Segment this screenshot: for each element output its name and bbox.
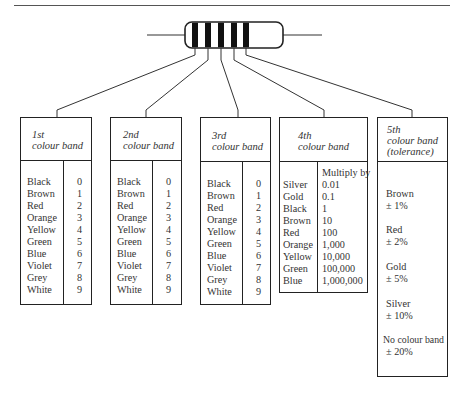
colour-name: Yellow (283, 251, 312, 263)
digit-value: 7 (256, 262, 261, 274)
header-line: 2nd (123, 129, 181, 140)
tolerance-colour: Gold (386, 261, 406, 273)
digit-value: 1 (77, 188, 82, 200)
multiplier-value: 1 (322, 203, 327, 215)
column-divider (152, 161, 153, 304)
digit-value: 3 (256, 214, 261, 226)
tolerance-colour: Brown (386, 188, 414, 200)
band-5 (243, 23, 249, 47)
digit-value: 2 (256, 202, 261, 214)
colour-name: Black (207, 178, 231, 190)
digit-value: 9 (256, 286, 261, 298)
colour-name: Grey (117, 272, 137, 284)
digit-value: 0 (166, 176, 171, 188)
colour-name: Violet (27, 260, 52, 272)
colour-name: Brown (117, 188, 145, 200)
colour-name: Yellow (207, 226, 236, 238)
digit-value: 3 (166, 212, 171, 224)
colour-name: Yellow (27, 224, 56, 236)
box-header: 1st colour band (21, 118, 91, 161)
colour-name: Blue (207, 250, 226, 262)
digit-value: 6 (166, 248, 171, 260)
digit-value: 5 (256, 238, 261, 250)
digit-value: 5 (166, 236, 171, 248)
colour-name: Violet (117, 260, 142, 272)
digit-value: 0 (77, 176, 82, 188)
header-line: colour band (387, 135, 447, 146)
digit-value: 7 (166, 260, 171, 272)
colour-name: Brown (283, 215, 311, 227)
colour-name: Blue (27, 248, 46, 260)
third-band-box: 3rd colour band Black 0 Brown 1 Red 2 Or… (200, 117, 271, 305)
header-line: colour band (298, 141, 367, 152)
colour-name: Brown (27, 188, 55, 200)
colour-name: Green (283, 263, 308, 275)
digit-value: 8 (256, 274, 261, 286)
colour-name: Yellow (117, 224, 146, 236)
digit-value: 4 (256, 226, 261, 238)
leader-band2 (146, 48, 208, 117)
digit-value: 1 (166, 188, 171, 200)
multiplier-value: 1,000 (322, 239, 345, 251)
fourth-band-box: 4th colour band Multiply by Silver 0.01 … (279, 117, 368, 293)
digit-value: 2 (77, 200, 82, 212)
leader-band4 (234, 48, 324, 117)
second-band-box: 2nd colour band Black 0 Brown 1 Red 2 Or… (110, 117, 182, 305)
colour-name: Gold (283, 191, 303, 203)
colour-name: White (27, 284, 52, 296)
digit-value: 0 (256, 178, 261, 190)
header-line: 5th (387, 124, 447, 135)
tolerance-value: ± 2% (386, 236, 408, 248)
box-header: 3rd colour band (201, 118, 270, 162)
multiplier-column-header: Multiply by (322, 167, 370, 179)
fifth-band-tolerance-box: 5th colour band (tolerance) Brown ± 1% R… (377, 117, 448, 377)
colour-name: Silver (283, 179, 307, 191)
band-1 (192, 23, 198, 47)
colour-name: Red (207, 202, 223, 214)
first-band-box: 1st colour band Black 0 Brown 1 Red 2 Or… (20, 117, 92, 305)
header-line: 4th (298, 130, 367, 141)
box-header: 2nd colour band (111, 118, 181, 161)
colour-name: Orange (27, 212, 57, 224)
band-4 (231, 23, 237, 47)
box-header: 4th colour band (280, 118, 367, 162)
header-line: colour band (212, 141, 270, 152)
digit-value: 1 (256, 190, 261, 202)
colour-name: Orange (283, 239, 313, 251)
colour-name: Red (117, 200, 133, 212)
colour-name: White (117, 284, 142, 296)
colour-name: White (207, 286, 232, 298)
tolerance-value: ± 1% (386, 200, 408, 212)
multiplier-value: 0.01 (322, 179, 340, 191)
digit-value: 9 (166, 284, 171, 296)
tolerance-colour: Silver (386, 298, 410, 310)
digit-value: 6 (77, 248, 82, 260)
digit-value: 3 (77, 212, 82, 224)
multiplier-value: 100,000 (322, 263, 355, 275)
colour-name: Grey (207, 274, 227, 286)
colour-name: Blue (283, 275, 302, 287)
column-divider (63, 161, 64, 304)
colour-name: Violet (207, 262, 232, 274)
colour-name: Green (27, 236, 52, 248)
multiplier-value: 100 (322, 227, 337, 239)
digit-value: 7 (77, 260, 82, 272)
colour-name: Red (27, 200, 43, 212)
colour-name: Orange (207, 214, 237, 226)
digit-value: 9 (77, 284, 82, 296)
multiplier-value: 0.1 (322, 191, 335, 203)
colour-name: Green (117, 236, 142, 248)
colour-name: Black (27, 176, 51, 188)
band-3 (218, 23, 224, 47)
digit-value: 5 (77, 236, 82, 248)
colour-name: Black (117, 176, 141, 188)
header-line: (tolerance) (387, 146, 447, 157)
colour-name: Red (283, 227, 299, 239)
leader-band5 (246, 48, 412, 117)
header-line: colour band (32, 140, 91, 151)
header-line: 3rd (212, 130, 270, 141)
multiplier-value: 10 (322, 215, 332, 227)
multiplier-value: 1,000,000 (322, 275, 363, 287)
column-divider (242, 162, 243, 304)
digit-value: 4 (166, 224, 171, 236)
